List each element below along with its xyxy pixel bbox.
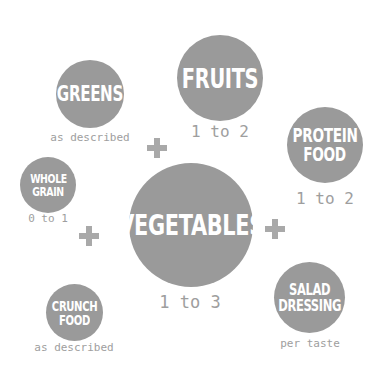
fruits-label: FRUITS	[182, 65, 258, 92]
vegetables-circle: VEGETABLES	[129, 163, 253, 287]
greens-label: GREENS	[57, 84, 123, 105]
plus-icon	[79, 226, 99, 246]
salad-dressing-circle: SALAD DRESSING	[274, 262, 345, 333]
salad-dressing-label-line2: DRESSING	[278, 298, 341, 314]
greens-quantity: as described	[50, 131, 129, 144]
whole-grain-circle: WHOLE GRAIN	[20, 157, 76, 213]
plus-icon	[147, 138, 167, 158]
protein-food-circle: PROTEIN FOOD	[287, 107, 363, 183]
whole-grain-quantity: 0 to 1	[28, 212, 68, 225]
crunch-food-label-line1: CRUNCH	[52, 299, 97, 313]
crunch-food-circle: CRUNCH FOOD	[46, 284, 103, 341]
fruits-circle: FRUITS	[177, 35, 263, 121]
crunch-food-label-line2: FOOD	[59, 313, 90, 327]
whole-grain-label-line2: GRAIN	[32, 185, 64, 198]
plus-icon	[265, 219, 285, 239]
greens-circle: GREENS	[56, 60, 124, 128]
protein-food-label-line2: FOOD	[304, 145, 347, 164]
crunch-food-quantity: as described	[34, 341, 113, 354]
salad-dressing-quantity: per taste	[280, 337, 340, 350]
vegetables-quantity: 1 to 3	[159, 292, 220, 312]
protein-food-quantity: 1 to 2	[296, 189, 354, 208]
vegetables-label: VEGETABLES	[118, 211, 264, 240]
fruits-quantity: 1 to 2	[191, 122, 249, 141]
